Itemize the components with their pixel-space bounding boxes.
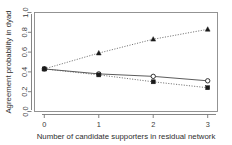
chart-canvas: 0.00.20.40.60.81.0 Agreement probability…: [0, 0, 232, 145]
series-rising-series: [42, 27, 210, 71]
data-point-triangle: [205, 27, 210, 31]
plot-panel-border: [35, 13, 218, 112]
series-open-circle-series: [42, 67, 210, 83]
data-point-square: [151, 80, 155, 84]
y-tick-label: 0.2: [21, 87, 30, 97]
data-point-square: [42, 67, 46, 71]
x-axis-title: Number of candidate supporters in residu…: [37, 132, 216, 141]
y-tick-label: 0.4: [21, 67, 30, 77]
y-tick-label: 0.8: [21, 27, 30, 37]
series-line: [44, 69, 207, 81]
series-filled-square-series: [42, 67, 209, 90]
y-axis: 0.00.20.40.60.81.0 Agreement probability…: [4, 7, 32, 116]
data-point-square: [206, 86, 210, 90]
x-tick-label: 1: [97, 120, 101, 129]
x-tick-group: [44, 115, 207, 119]
x-ticklabel-group: 0123: [42, 120, 210, 129]
data-point-triangle: [96, 50, 101, 54]
data-point-square: [97, 73, 101, 77]
y-ticklabel-group: 0.00.20.40.60.81.0: [21, 7, 30, 116]
y-tick-label: 0.0: [21, 106, 30, 116]
series-line: [44, 69, 207, 88]
x-tick-label: 3: [206, 120, 210, 129]
series-layer: [42, 27, 210, 90]
chart-figure: 0.00.20.40.60.81.0 Agreement probability…: [0, 0, 232, 145]
x-tick-label: 2: [151, 120, 155, 129]
data-point-circle: [205, 79, 209, 83]
y-tick-label: 1.0: [21, 7, 30, 17]
series-line: [44, 29, 207, 69]
y-axis-title: Agreement probability in dyad: [4, 10, 13, 113]
x-axis: 0123 Number of candidate supporters in r…: [37, 115, 216, 142]
x-tick-label: 0: [42, 120, 46, 129]
y-tick-label: 0.6: [21, 47, 30, 57]
data-point-circle: [151, 74, 155, 78]
